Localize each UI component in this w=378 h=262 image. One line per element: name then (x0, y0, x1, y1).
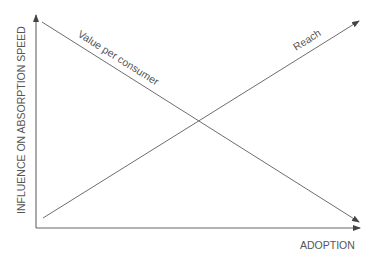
reach-line (43, 21, 359, 218)
reach-label: Reach (291, 26, 323, 52)
adoption-diagram: Value per consumer Reach ADOPTION INFLUE… (0, 0, 378, 262)
value-per-consumer-line (42, 22, 359, 222)
y-axis-label: INFLUENCE ON ABSORPTION SPEED (15, 26, 27, 214)
value-per-consumer-label: Value per consumer (76, 28, 162, 88)
x-axis-label: ADOPTION (300, 239, 355, 251)
